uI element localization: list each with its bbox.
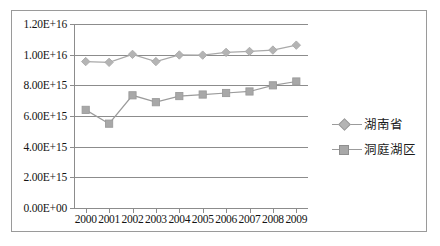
square-marker-icon bbox=[152, 99, 159, 106]
diamond-marker-icon bbox=[82, 57, 90, 65]
square-marker-icon bbox=[332, 143, 362, 155]
legend-item-hunan[interactable]: 湖南省 bbox=[332, 114, 416, 133]
x-tick-label: 2001 bbox=[98, 213, 120, 225]
diamond-marker-icon bbox=[245, 47, 253, 55]
diamond-marker-icon bbox=[152, 57, 160, 65]
y-tick-label: 6.00E+15 bbox=[23, 110, 67, 122]
y-tick-label: 4.00E+15 bbox=[23, 141, 67, 153]
x-tick-label: 2009 bbox=[285, 213, 307, 225]
series-2 bbox=[82, 78, 300, 127]
x-tick-label: 2004 bbox=[168, 213, 190, 225]
diamond-marker-icon bbox=[332, 118, 362, 130]
chart-legend: 湖南省 洞庭湖区 bbox=[332, 114, 416, 158]
x-tick-label: 2007 bbox=[239, 213, 261, 225]
diamond-marker-icon bbox=[128, 50, 136, 58]
diamond-marker-icon bbox=[269, 46, 277, 54]
square-marker-icon bbox=[269, 82, 276, 89]
data-series-layer bbox=[74, 24, 308, 208]
diamond-marker-icon bbox=[105, 58, 113, 66]
legend-label-dongtinghu: 洞庭湖区 bbox=[362, 139, 416, 158]
square-marker-icon bbox=[106, 120, 113, 127]
series-line bbox=[86, 82, 297, 124]
x-tick-label: 2008 bbox=[262, 213, 284, 225]
square-marker-icon bbox=[82, 106, 89, 113]
legend-label-hunan: 湖南省 bbox=[362, 114, 403, 133]
chart-plot-wrapper: 0.00E+002.00E+154.00E+156.00E+158.00E+15… bbox=[12, 11, 426, 231]
legend-item-dongtinghu[interactable]: 洞庭湖区 bbox=[332, 139, 416, 158]
x-tick-label: 2005 bbox=[192, 213, 214, 225]
square-marker-icon bbox=[223, 89, 230, 96]
x-tick-label: 2006 bbox=[215, 213, 237, 225]
diamond-marker-icon bbox=[292, 41, 300, 49]
y-tick-label: 1.00E+16 bbox=[23, 49, 67, 61]
y-tick-label: 1.20E+16 bbox=[23, 18, 67, 30]
square-marker-icon bbox=[199, 91, 206, 98]
x-tick-label: 2002 bbox=[122, 213, 144, 225]
diamond-marker-icon bbox=[175, 51, 183, 59]
series-line bbox=[86, 45, 297, 62]
chart-container: 0.00E+002.00E+154.00E+156.00E+158.00E+15… bbox=[11, 10, 427, 232]
x-tick-label: 2000 bbox=[75, 213, 97, 225]
y-tick bbox=[70, 208, 75, 209]
y-tick-label: 8.00E+15 bbox=[23, 79, 67, 91]
diamond-marker-icon bbox=[222, 48, 230, 56]
y-tick-label: 2.00E+15 bbox=[23, 171, 67, 183]
y-tick-label: 0.00E+00 bbox=[23, 202, 67, 214]
plot-area: 0.00E+002.00E+154.00E+156.00E+158.00E+15… bbox=[74, 24, 308, 208]
x-tick-label: 2003 bbox=[145, 213, 167, 225]
diamond-marker-icon bbox=[199, 51, 207, 59]
series-1 bbox=[82, 41, 301, 67]
square-marker-icon bbox=[129, 92, 136, 99]
square-marker-icon bbox=[176, 92, 183, 99]
square-marker-icon bbox=[246, 88, 253, 95]
square-marker-icon bbox=[293, 78, 300, 85]
